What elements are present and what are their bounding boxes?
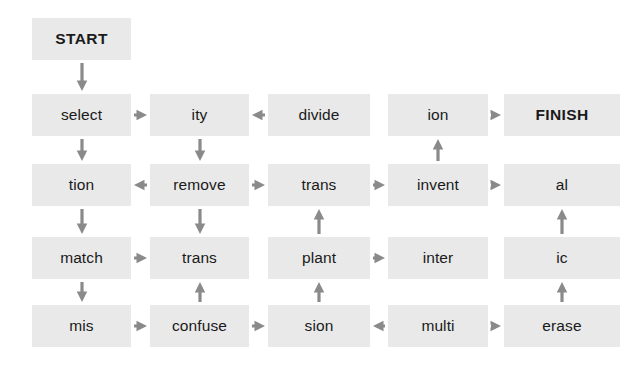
- arrow-remove-to-trans: [252, 178, 265, 192]
- arrow-select-to-ity: [134, 108, 147, 122]
- arrow-trans-to-invent: [373, 178, 385, 192]
- node-select: select: [32, 94, 131, 136]
- node-finish: FINISH: [504, 94, 620, 136]
- node-trans1: trans: [268, 164, 370, 206]
- node-start: START: [32, 18, 131, 60]
- node-al: al: [504, 164, 620, 206]
- node-inter: inter: [388, 237, 488, 279]
- node-ic: ic: [504, 237, 620, 279]
- node-remove: remove: [150, 164, 249, 206]
- arrow-invent-to-al: [491, 178, 501, 192]
- arrow-select-to-tion: [75, 139, 89, 161]
- arrow-tion-to-match: [75, 209, 89, 234]
- arrow-ion-to-finish: [491, 108, 501, 122]
- arrow-ic-to-al: [555, 209, 569, 234]
- node-ion: ion: [388, 94, 488, 136]
- arrow-confuse-to-sion: [252, 319, 265, 333]
- node-plant: plant: [268, 237, 370, 279]
- arrow-remove-to-trans2: [193, 209, 207, 234]
- node-multi: multi: [388, 305, 488, 347]
- node-confuse: confuse: [150, 305, 249, 347]
- arrow-match-to-trans2: [134, 251, 147, 265]
- node-match: match: [32, 237, 131, 279]
- arrow-plant-to-inter: [373, 251, 385, 265]
- arrow-plant-to-trans: [312, 209, 326, 234]
- arrow-erase-to-ic: [555, 282, 569, 302]
- flowchart-canvas: STARTselectitydivideionFINISHtionremovet…: [0, 0, 629, 370]
- arrow-mis-to-confuse: [134, 319, 147, 333]
- arrow-sion-to-plant: [312, 282, 326, 302]
- arrow-multi-to-erase: [491, 319, 501, 333]
- arrow-confuse-to-trans2: [193, 282, 207, 302]
- node-sion: sion: [268, 305, 370, 347]
- arrow-divide-to-ity: [252, 108, 265, 122]
- node-mis: mis: [32, 305, 131, 347]
- node-ity: ity: [150, 94, 249, 136]
- node-divide: divide: [268, 94, 370, 136]
- node-erase: erase: [504, 305, 620, 347]
- arrow-ity-to-remove: [193, 139, 207, 161]
- arrow-match-to-mis: [75, 282, 89, 302]
- node-tion: tion: [32, 164, 131, 206]
- node-invent: invent: [388, 164, 488, 206]
- arrow-remove-to-tion: [134, 178, 147, 192]
- arrow-multi-to-sion: [373, 319, 385, 333]
- node-trans2: trans: [150, 237, 249, 279]
- arrow-start-to-select: [75, 63, 89, 91]
- arrow-invent-to-ion: [431, 139, 445, 161]
